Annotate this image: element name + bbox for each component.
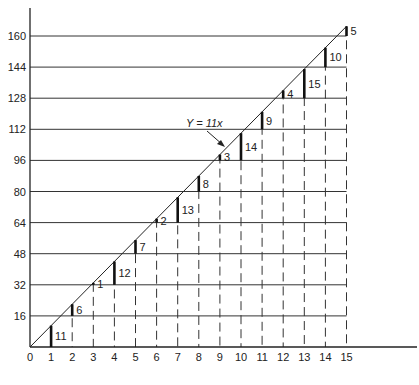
y-tick-48: 48	[14, 248, 26, 260]
x-tick-1: 1	[48, 351, 54, 363]
grid	[30, 36, 347, 316]
y-tick-96: 96	[14, 154, 26, 166]
line-y-11x	[30, 26, 347, 347]
x-tick-3: 3	[90, 351, 96, 363]
annotation-label: Y = 11x	[186, 117, 223, 129]
y-tick-16: 16	[14, 310, 26, 322]
y-tick-112: 112	[8, 123, 26, 135]
y-tick-144: 144	[8, 61, 26, 73]
y-tick-64: 64	[14, 217, 26, 229]
remainder-label-9: 3	[224, 151, 230, 163]
x-tick-9: 9	[217, 351, 223, 363]
x-tick-0: 0	[27, 351, 33, 363]
remainder-label-2: 6	[76, 304, 82, 316]
axes	[30, 8, 417, 347]
x-tick-13: 13	[298, 351, 310, 363]
remainder-label-10: 14	[245, 141, 257, 153]
line-path	[30, 26, 347, 347]
x-tick-2: 2	[69, 351, 75, 363]
remainder-label-15: 5	[351, 25, 357, 37]
remainder-label-1: 11	[55, 330, 66, 342]
remainder-label-14: 10	[329, 51, 341, 63]
chart: 163248648096112128144160 012345678910111…	[0, 0, 419, 385]
remainder-label-8: 8	[203, 178, 209, 190]
x-tick-15: 15	[340, 351, 352, 363]
y-tick-160: 160	[8, 30, 26, 42]
remainder-label-5: 7	[140, 241, 146, 253]
x-tick-5: 5	[132, 351, 138, 363]
x-tick-11: 11	[256, 351, 267, 363]
y-tick-labels: 163248648096112128144160	[8, 30, 26, 322]
x-tick-labels: 0123456789101112131415	[27, 351, 353, 363]
x-tick-4: 4	[111, 351, 117, 363]
remainder-label-7: 13	[182, 204, 194, 216]
remainder-label-12: 4	[287, 88, 293, 100]
y-tick-32: 32	[14, 279, 26, 291]
remainder-label-4: 12	[118, 267, 130, 279]
line-annotation: Y = 11x	[186, 117, 225, 147]
y-tick-128: 128	[8, 92, 26, 104]
x-tick-14: 14	[319, 351, 331, 363]
x-tick-8: 8	[196, 351, 202, 363]
remainder-label-3: 1	[97, 278, 103, 290]
x-tick-10: 10	[235, 351, 247, 363]
remainder-bars: 116112721383149415105	[51, 25, 357, 347]
x-tick-6: 6	[154, 351, 160, 363]
x-tick-12: 12	[277, 351, 289, 363]
remainder-label-11: 9	[266, 115, 272, 127]
x-tick-7: 7	[175, 351, 181, 363]
remainder-label-13: 15	[308, 78, 320, 90]
remainder-label-6: 2	[161, 215, 167, 227]
y-tick-80: 80	[14, 186, 26, 198]
